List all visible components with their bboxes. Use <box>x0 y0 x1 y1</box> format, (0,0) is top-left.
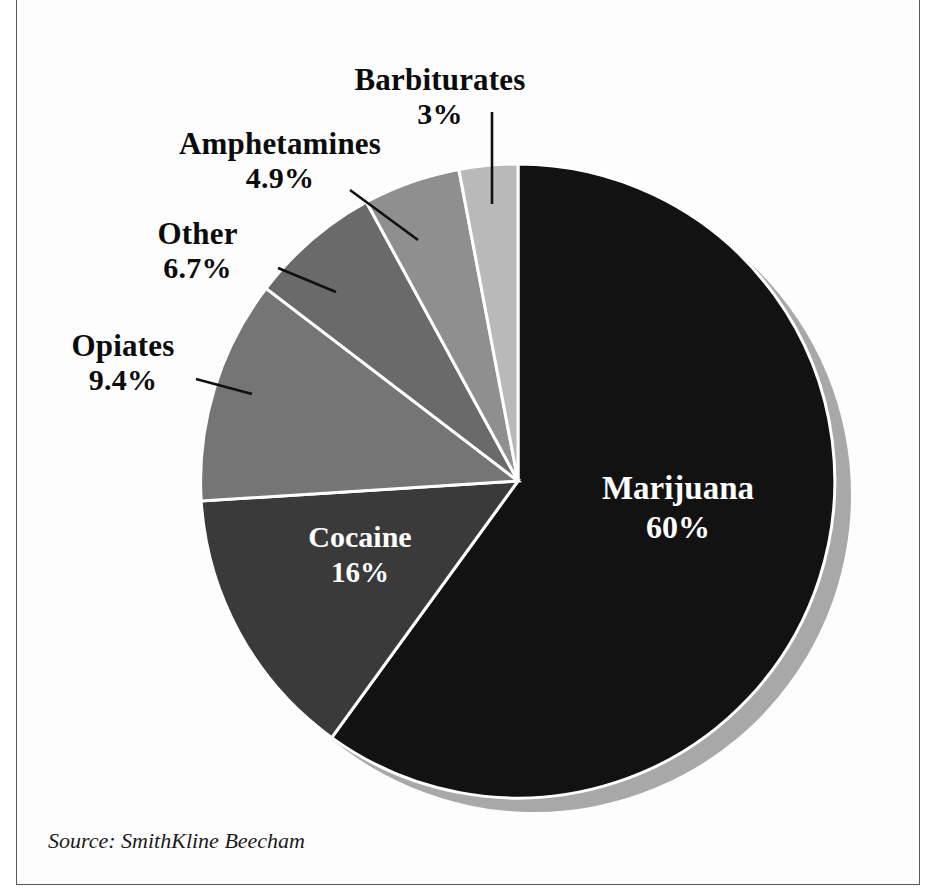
slice-label-opiates-name: Opiates <box>48 330 198 361</box>
chart-page: Barbiturates 3% Amphetamines 4.9% Other … <box>0 0 946 896</box>
slice-label-opiates: Opiates 9.4% <box>48 330 198 395</box>
source-attribution: Source: SmithKline Beecham <box>48 828 305 854</box>
slice-label-marijuana-value: 60% <box>548 511 808 543</box>
slice-label-opiates-value: 9.4% <box>48 365 198 395</box>
slice-label-cocaine-value: 16% <box>260 558 460 587</box>
slice-label-amphetamines-name: Amphetamines <box>125 128 435 159</box>
slice-label-amphetamines: Amphetamines 4.9% <box>125 128 435 193</box>
slice-label-cocaine-name: Cocaine <box>260 522 460 552</box>
slice-label-barbiturates-value: 3% <box>290 99 590 129</box>
slice-label-other-value: 6.7% <box>110 253 285 283</box>
slice-label-marijuana: Marijuana 60% <box>548 472 808 543</box>
slice-label-other: Other 6.7% <box>110 218 285 283</box>
slice-label-barbiturates-name: Barbiturates <box>290 64 590 95</box>
pie-chart: Barbiturates 3% Amphetamines 4.9% Other … <box>0 0 946 896</box>
slice-label-marijuana-name: Marijuana <box>548 472 808 505</box>
slice-label-barbiturates: Barbiturates 3% <box>290 64 590 129</box>
slice-label-other-name: Other <box>110 218 285 249</box>
slice-label-cocaine: Cocaine 16% <box>260 522 460 587</box>
slice-label-amphetamines-value: 4.9% <box>125 163 435 193</box>
